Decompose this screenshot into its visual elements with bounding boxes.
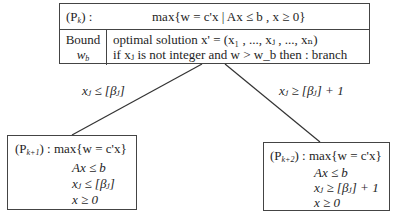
root-info: optimal solution x' = (x₁ , ..., xⱼ , ..… [113,32,347,62]
left-branch-label: xⱼ ≤ [βⱼ] [82,83,125,99]
edge-right [225,64,320,142]
root-node: (Pk) : max{w = c'x | Ax ≤ b , x ≥ 0} Bou… [59,3,370,64]
root-label: (Pk) : [66,9,92,25]
left-constraint-3: x ≥ 0 [72,192,98,208]
right-constraint-2: xⱼ ≥ [βⱼ] + 1 [314,180,379,196]
root-header-row: (Pk) : max{w = c'x | Ax ≤ b , x ≥ 0} [60,4,369,30]
right-constraint-1: Ax ≤ b [314,165,348,181]
bound-var: wb [60,47,106,66]
left-constraint-1: Ax ≤ b [72,160,106,176]
bound-label: Bound [60,32,106,47]
left-child-node: (Pk+1) : max{w = c'x} Ax ≤ b xⱼ ≤ [βⱼ] x… [7,135,137,210]
left-child-header: (Pk+1) : max{w = c'x} [15,141,127,157]
right-child-header: (Pk+2) : max{w = c'x} [270,148,382,164]
right-constraint-3: x ≥ 0 [314,195,340,211]
root-objective: max{w = c'x | Ax ≤ b , x ≥ 0} [152,9,306,25]
left-constraint-2: xⱼ ≤ [βⱼ] [72,176,115,192]
root-bound-row: Bound wb optimal solution x' = (x₁ , ...… [60,30,369,65]
right-child-node: (Pk+2) : max{w = c'x} Ax ≤ b xⱼ ≥ [βⱼ] +… [263,142,390,211]
right-branch-label: xⱼ ≥ [βⱼ] + 1 [279,83,344,99]
optimal-solution-text: optimal solution x' = (x₁ , ..., xⱼ , ..… [113,32,347,47]
bound-cell: Bound wb [60,30,107,65]
edge-left [72,64,202,135]
branch-condition-text: if xⱼ is not integer and w > w_b then : … [113,47,347,62]
